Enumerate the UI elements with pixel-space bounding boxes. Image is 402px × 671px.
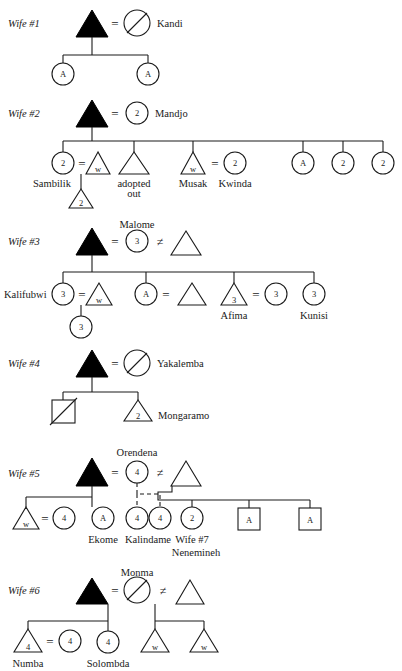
child-glyph: 3 [61, 289, 65, 299]
spouse-name-monma: Monma [121, 567, 154, 578]
child-w6-solombda: 4 [97, 631, 119, 653]
spouse-name-kwinda: Kwinda [218, 178, 252, 189]
spouse-w3-kalifubwi: w [86, 283, 112, 305]
spouse-glyph: w [96, 295, 103, 305]
spouse-name-orendena: Orendena [117, 447, 158, 458]
kinship-diagram: Wife #1 = Kandi A A Wife #2 = 2 Mandjo 2… [0, 0, 402, 671]
child-w1-2: A [137, 63, 159, 85]
child-w3-kalifubwi: 3 [52, 283, 74, 305]
child-w2-sambilik: 2 [52, 152, 74, 174]
spouse-orendena: 4 [126, 461, 148, 483]
child-w6-numba: 4 [14, 629, 42, 652]
child-w2-8: 2 [372, 152, 394, 174]
child-glyph: A [246, 515, 253, 525]
child-glyph: 4 [158, 513, 163, 523]
section-wife4: Wife #4 = Yakalemba 2 Mongaramo [8, 350, 209, 425]
divorce-symbol-wife5: ≠ [157, 466, 164, 480]
marriage-equals-afima: = [252, 287, 259, 302]
marriage-equals-numba: = [46, 634, 53, 649]
child-name-solombda: Solombda [87, 658, 130, 669]
child-w5-5: 4 [149, 507, 171, 529]
child-w6-4: w [141, 629, 169, 652]
spouse-name-kandi: Kandi [157, 18, 183, 29]
spouse-name-yakalemba: Yakalemba [157, 358, 204, 369]
ego-triangle-wife6 [76, 578, 108, 604]
stepped-descent-wife5 [158, 486, 192, 500]
marriage-equals-wife4: = [111, 356, 118, 371]
child-glyph: 3 [232, 295, 236, 305]
child-glyph: 2 [341, 158, 345, 168]
spouse-w2-kwinda: 2 [224, 152, 246, 174]
marriage-equals-wife6: = [111, 583, 118, 598]
child-w2-6: A [292, 152, 314, 174]
child-w6-5: w [190, 629, 218, 652]
section-wife6: Wife #6 Monma = ≠ 4 = 4 Numba 4 Solombda… [8, 567, 218, 669]
child-w3-afima: 3 [221, 283, 247, 305]
ego-triangle-wife3 [76, 228, 108, 255]
marriage-equals-musak: = [211, 156, 218, 171]
spouse-malome: 3 [126, 230, 148, 252]
spouse-name-malome: Malome [120, 219, 155, 230]
deceased-female-kandi [124, 10, 150, 36]
section-wife1: Wife #1 = Kandi A A [8, 10, 183, 85]
kinship-canvas: Wife #1 = Kandi A A Wife #2 = 2 Mandjo 2… [0, 0, 402, 671]
child-w5-square-1: A [238, 508, 260, 530]
marriage-equals-sambilik: = [78, 156, 85, 171]
spouse-glyph: 3 [135, 236, 139, 246]
spouse-glyph: 4 [62, 513, 67, 523]
spouse-w5-1: 4 [53, 507, 75, 529]
divorce-symbol-wife3: ≠ [157, 235, 164, 249]
child-name-afima: Afima [221, 310, 248, 321]
spouse-glyph: 4 [68, 636, 73, 646]
child-w2-7: 2 [332, 152, 354, 174]
second-husband-triangle-wife6 [176, 580, 204, 604]
marriage-equals-wife5: = [111, 465, 118, 480]
spouse-glyph: w [95, 164, 102, 174]
section-wife5: Wife #5 Orendena = 4 ≠ w = 4 A Ekome 4 4… [8, 447, 321, 558]
child-w5-square-2: A [299, 508, 321, 530]
dashed-descent-wife5 [137, 483, 160, 507]
marriage-equals-wife3: = [111, 234, 118, 249]
child-glyph: 4 [135, 513, 140, 523]
spouse-name-mandjo: Mandjo [155, 108, 188, 119]
child-name-nenemineh: Nenemineh [172, 547, 221, 558]
wife6-label: Wife #6 [8, 585, 41, 596]
child-w5-wife7: 2 [181, 507, 203, 529]
child-name-adopted-out-line2: out [127, 188, 141, 199]
divorce-symbol-wife6: ≠ [160, 584, 167, 598]
child-glyph: 2 [381, 158, 385, 168]
child-glyph: 4 [106, 637, 111, 647]
child-glyph: A [60, 69, 67, 79]
deceased-female-monma [124, 577, 150, 603]
section-wife2: Wife #2 = 2 Mandjo 2 = w Sambilik 2 adop… [8, 100, 394, 208]
child-glyph: A [307, 515, 314, 525]
grandchild-glyph: 2 [79, 198, 83, 208]
marriage-equals-w3-2: = [162, 287, 169, 302]
child-name-kunisi: Kunisi [300, 310, 328, 321]
child-w3-kunisi: 3 [303, 283, 325, 305]
spouse-w2-sambilik: w [86, 152, 110, 174]
spouse-glyph: 2 [135, 108, 139, 118]
ego-triangle-wife5 [76, 458, 108, 486]
deceased-female-yakalemba [124, 350, 150, 376]
child-w4-mongaramo: 2 [124, 400, 152, 421]
second-husband-triangle-wife3 [171, 231, 201, 255]
child-name-ekome: Ekome [88, 534, 118, 545]
child-glyph: 2 [190, 513, 194, 523]
child-name-mongaramo: Mongaramo [158, 410, 209, 421]
grandchild-w3-1: 3 [70, 316, 92, 338]
grandchild-w2-1: 2 [69, 189, 93, 208]
marriage-equals-wife1: = [111, 16, 118, 31]
child-name-musak: Musak [179, 178, 208, 189]
child-w5-ekome: A [92, 507, 114, 529]
spouse-mandjo: 2 [126, 102, 148, 124]
child-glyph: w [23, 519, 30, 529]
child-w2-adopted-out [119, 152, 149, 174]
child-name-numba: Numba [13, 658, 44, 669]
child-glyph: A [143, 289, 150, 299]
child-glyph: A [145, 69, 152, 79]
ego-triangle-wife1 [76, 10, 108, 37]
wife4-label: Wife #4 [8, 358, 41, 369]
deceased-male-child-w4 [50, 398, 77, 425]
wife2-label: Wife #2 [8, 108, 41, 119]
